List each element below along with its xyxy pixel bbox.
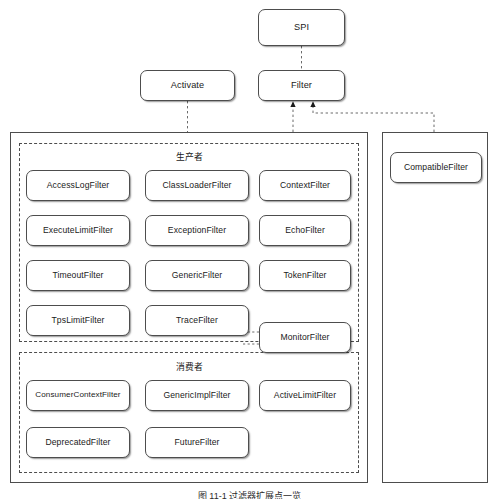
node-generic-filter[interactable]: GenericFilter	[145, 260, 249, 291]
node-generic-impl-filter[interactable]: GenericImplFilter	[145, 380, 249, 411]
node-spi[interactable]: SPI	[258, 9, 345, 46]
node-monitor-filter[interactable]: MonitorFilter	[259, 322, 351, 353]
diagram-canvas: SPI Activate Filter 生产者 消费者 AccessLogFil…	[0, 0, 499, 499]
node-filter[interactable]: Filter	[258, 70, 345, 101]
wire-right-panel-to-filter	[313, 104, 434, 132]
node-trace-filter[interactable]: TraceFilter	[145, 305, 249, 336]
node-compatible-filter[interactable]: CompatibleFilter	[390, 152, 482, 183]
node-class-loader-filter[interactable]: ClassLoaderFilter	[145, 170, 249, 201]
node-echo-filter[interactable]: EchoFilter	[259, 215, 351, 246]
node-timeout-filter[interactable]: TimeoutFilter	[26, 260, 130, 291]
node-tps-limit-filter[interactable]: TpsLimitFilter	[26, 305, 130, 336]
node-context-filter[interactable]: ContextFilter	[259, 170, 351, 201]
consumer-group-title: 消费者	[19, 360, 359, 373]
node-access-log-filter[interactable]: AccessLogFilter	[26, 170, 130, 201]
node-consumer-context-filter[interactable]: ConsumerContextFilter	[26, 380, 130, 411]
figure-caption: 图 11-1 过滤器扩展点一览	[0, 489, 499, 499]
node-deprecated-filter[interactable]: DeprecatedFilter	[26, 427, 130, 458]
node-exception-filter[interactable]: ExceptionFilter	[145, 215, 249, 246]
right-outer-container	[382, 132, 488, 483]
node-execute-limit-filter[interactable]: ExecuteLimitFilter	[26, 215, 130, 246]
node-token-filter[interactable]: TokenFilter	[259, 260, 351, 291]
node-future-filter[interactable]: FutureFilter	[145, 427, 249, 458]
node-active-limit-filter[interactable]: ActiveLimitFilter	[259, 380, 351, 411]
node-activate[interactable]: Activate	[140, 70, 235, 101]
provider-group-title: 生产者	[19, 150, 359, 163]
